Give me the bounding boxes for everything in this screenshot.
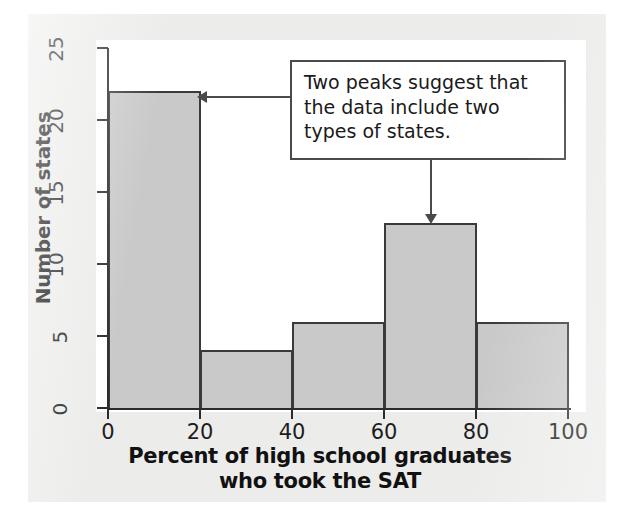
- x-tick-80: [475, 409, 477, 419]
- x-tick-100: [567, 409, 569, 419]
- y-tick-label-15: 15: [44, 173, 68, 213]
- x-tick-label-60: 60: [354, 420, 414, 444]
- x-tick-label-20: 20: [170, 420, 230, 444]
- chart-figure: Number of states 25 20 15 10 5 0 0 20 40…: [0, 0, 632, 518]
- x-axis-title-line2: who took the SAT: [70, 469, 570, 494]
- arrow-down-icon: [425, 214, 437, 224]
- x-tick-20: [199, 409, 201, 419]
- arrow-left-icon: [197, 91, 207, 103]
- y-tick-label-5: 5: [48, 317, 72, 357]
- x-tick-60: [383, 409, 385, 419]
- x-tick-40: [291, 409, 293, 419]
- bar-80-100: [476, 322, 569, 410]
- y-tick-label-0: 0: [48, 389, 72, 429]
- x-tick-label-80: 80: [446, 420, 506, 444]
- bar-20-40: [200, 350, 293, 410]
- x-tick-label-0: 0: [78, 420, 138, 444]
- bar-40-60: [292, 322, 385, 410]
- bar-0-20: [108, 91, 201, 410]
- x-axis-title: Percent of high school graduates who too…: [70, 444, 570, 494]
- annotation-leader-down: [430, 159, 432, 217]
- annotation-leader-left: [203, 96, 291, 98]
- y-tick-label-10: 10: [44, 245, 68, 285]
- y-tick-label-25: 25: [44, 29, 68, 69]
- x-tick-0: [107, 409, 109, 419]
- y-axis-line: [107, 48, 109, 410]
- y-tick-label-20: 20: [44, 101, 68, 141]
- x-axis-title-line1: Percent of high school graduates: [70, 444, 570, 469]
- bar-60-80: [384, 223, 477, 410]
- annotation-callout: Two peaks suggest that the data include …: [290, 60, 566, 160]
- x-tick-label-100: 100: [538, 420, 598, 444]
- x-tick-label-40: 40: [262, 420, 322, 444]
- x-axis-line: [107, 408, 571, 410]
